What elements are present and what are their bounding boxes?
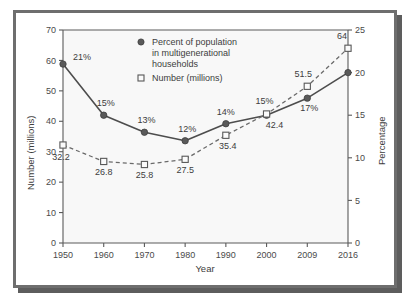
left-tick-label: 70 [46,25,56,35]
data-point-label: 15% [97,98,115,108]
data-point-marker [141,129,147,135]
left-tick-label: 50 [46,86,56,96]
data-point-label: 25.8 [136,170,154,180]
left-tick-label: 60 [46,56,56,66]
data-point-marker [60,142,66,148]
x-tick-label: 1980 [175,250,195,260]
x-tick-label: 1960 [94,250,114,260]
data-point-label: 26.8 [95,167,113,177]
data-point-marker [182,138,188,144]
data-point-marker [345,45,351,51]
figure-root: 010203040506070 0510152025 1950196019701… [0,0,415,302]
data-point-marker [101,158,107,164]
right-tick-label: 20 [355,68,365,78]
y-axis-title: Number (millions) [25,116,36,190]
left-tick-label: 10 [46,208,56,218]
data-point-label: 12% [178,124,196,134]
bottom-axis-ticks: 19501960197019801990200020092016 [53,243,358,260]
data-point-label: 21% [73,52,91,62]
data-point-label: 51.5 [295,69,313,79]
x-tick-label: 2009 [297,250,317,260]
data-point-marker [101,112,107,118]
data-point-label: 32.2 [52,152,70,162]
x-tick-label: 1970 [134,250,154,260]
left-axis-ticks: 010203040506070 [46,25,63,248]
right-tick-label: 5 [355,196,360,206]
left-tick-label: 40 [46,116,56,126]
data-point-label: 35.4 [219,141,237,151]
data-point-marker [182,156,188,162]
plot-area-background [63,30,348,243]
data-point-marker [223,132,229,138]
x-tick-label: 1950 [53,250,73,260]
data-point-label: 17% [300,103,318,113]
left-tick-label: 20 [46,177,56,187]
legend-entry-1-line1: Number (millions) [152,73,223,83]
right-axis-ticks: 0510152025 [348,25,365,248]
data-point-marker [141,161,147,167]
right-tick-label: 0 [355,238,360,248]
data-point-marker [345,69,351,75]
data-point-label: 27.5 [176,165,194,175]
right-tick-label: 10 [355,153,365,163]
legend-entry-0-line3: households [152,59,199,69]
right-tick-label: 15 [355,110,365,120]
data-point-label: 64 [337,31,347,41]
x-tick-label: 2016 [338,250,358,260]
legend-open-square-icon [138,75,144,81]
data-point-label: 15% [256,96,274,106]
legend-filled-circle-icon [138,39,144,45]
left-tick-label: 0 [51,238,56,248]
data-point-label: 13% [137,115,155,125]
data-point-marker [304,83,310,89]
data-point-label: 42.4 [266,120,284,130]
x-tick-label: 2000 [257,250,277,260]
x-axis-title: Year [195,263,214,274]
multigenerational-households-chart: 010203040506070 0510152025 1950196019701… [0,0,415,302]
data-point-marker [60,61,66,67]
legend-entry-0-line1: Percent of population [152,37,237,47]
y2-axis-title: Percentage [376,116,387,165]
data-point-marker [263,111,269,117]
data-point-marker [223,121,229,127]
data-point-marker [304,95,310,101]
data-point-label: 14% [217,107,235,117]
x-tick-label: 1990 [216,250,236,260]
legend-entry-0-line2: in multigenerational [152,48,230,58]
right-tick-label: 25 [355,25,365,35]
